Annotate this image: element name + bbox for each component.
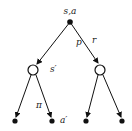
state-label-s-prime: s′ <box>50 64 57 74</box>
edge-label-r: r <box>92 35 97 45</box>
edge-left-state-to-leaf-2 <box>36 75 51 117</box>
backup-diagram: s,a p r s′ π a′ <box>0 0 132 131</box>
edge-left-state-to-leaf-1 <box>16 75 31 117</box>
leaf-action-node-2 <box>49 118 54 123</box>
edge-right-state-to-leaf-4 <box>103 75 121 117</box>
edge-label-pi: π <box>35 100 43 110</box>
leaf-action-node-4 <box>119 118 124 123</box>
edge-right-state-to-leaf-3 <box>87 75 98 117</box>
leaf-action-node-3 <box>83 118 88 123</box>
root-label: s,a <box>64 6 77 16</box>
right-state-node <box>95 65 105 75</box>
edge-root-to-left-state <box>37 22 70 64</box>
leaf-action-node-1 <box>12 118 17 123</box>
root-action-node <box>67 19 73 25</box>
left-state-node <box>28 65 38 75</box>
leaf-label-a-prime: a′ <box>60 115 67 125</box>
edge-label-p: p <box>76 37 82 47</box>
